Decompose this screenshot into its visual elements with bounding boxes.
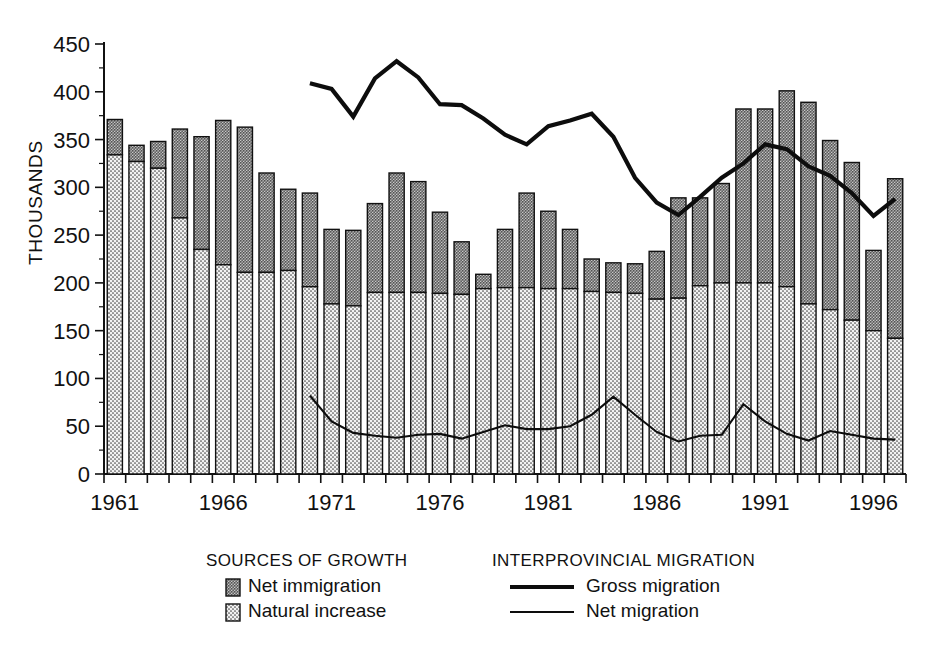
bar-segment-net-immigration [627,264,642,294]
bar-segment-net-immigration [714,184,729,283]
bar-group [584,259,599,474]
bar-group [627,264,642,474]
bar-segment-natural-increase [823,310,838,474]
bar-segment-net-immigration [519,193,534,288]
bar-segment-net-immigration [346,230,361,305]
bar-segment-natural-increase [411,292,426,474]
bar-segment-natural-increase [389,292,404,474]
bar-group [562,229,577,474]
x-axis-tick-label: 1996 [849,490,898,515]
bar-group [107,119,122,474]
bar-segment-natural-increase [844,320,859,474]
bar-segment-natural-increase [151,168,166,474]
y-axis-tick-label: 250 [53,223,90,248]
bar-group [194,137,209,474]
bar-segment-natural-increase [302,287,317,474]
legend-item[interactable]: Net immigration [226,575,381,596]
bar-segment-net-immigration [823,141,838,310]
bar-group [389,173,404,474]
bar-segment-natural-increase [237,272,252,474]
bar-segment-net-immigration [454,242,469,295]
bar-segment-net-immigration [758,109,773,283]
y-axis-title: THOUSANDS [25,140,46,265]
bar-segment-net-immigration [584,259,599,291]
bar-segment-natural-increase [129,162,144,474]
bar-group [151,141,166,474]
y-axis-tick-label: 200 [53,271,90,296]
bar-segment-net-immigration [562,229,577,288]
x-axis-tick-label: 1966 [199,490,248,515]
bar-group [497,229,512,474]
bar-group [888,179,903,474]
bar-segment-natural-increase [584,291,599,474]
bar-segment-natural-increase [866,331,881,474]
bar-segment-natural-increase [692,286,707,474]
bar-group [714,184,729,474]
bar-segment-net-immigration [649,251,664,299]
bar-segment-net-immigration [411,182,426,293]
bar-segment-natural-increase [801,304,816,474]
bar-segment-net-immigration [801,102,816,304]
x-axis-tick-label: 1976 [415,490,464,515]
bar-group [758,109,773,474]
bar-segment-net-immigration [194,137,209,250]
bar-group [259,173,274,474]
bar-segment-natural-increase [562,289,577,474]
bar-group [129,145,144,474]
bar-segment-net-immigration [107,119,122,154]
bar-group [324,229,339,474]
bar-segment-natural-increase [779,287,794,474]
bar-segment-natural-increase [367,292,382,474]
bar-segment-natural-increase [758,283,773,474]
legend-item-label: Gross migration [586,575,720,596]
bar-segment-natural-increase [259,272,274,474]
bar-group [367,204,382,474]
bar-segment-net-immigration [216,120,231,264]
x-axis-tick-label: 1961 [90,490,139,515]
bar-segment-net-immigration [151,141,166,168]
legend-swatch-net-immigration [226,579,240,596]
bar-group [172,129,187,474]
bar-group [671,198,686,474]
bar-group [476,274,491,474]
bar-segment-natural-increase [216,265,231,474]
y-axis-title-text: THOUSANDS [25,140,46,265]
x-axis-tick-label: 1986 [632,490,681,515]
y-axis-tick-label: 300 [53,175,90,200]
bar-group [801,102,816,474]
legend-item[interactable]: Gross migration [510,575,720,596]
bar-segment-natural-increase [346,306,361,474]
bar-segment-natural-increase [107,155,122,474]
bar-group [519,193,534,474]
bar-group [237,127,252,474]
bar-segment-net-immigration [541,211,556,288]
bar-segment-natural-increase [324,304,339,474]
legend-swatch-natural-increase [226,604,240,621]
y-axis-tick-label: 400 [53,80,90,105]
bar-group [823,141,838,474]
bar-segment-natural-increase [454,294,469,474]
bar-segment-natural-increase [476,289,491,474]
bar-segment-net-immigration [866,250,881,330]
chart-figure: 0501001502002503003504004501961196619711… [0,0,932,652]
bar-segment-net-immigration [779,91,794,287]
legend-item[interactable]: Natural increase [226,600,386,621]
y-axis-tick-label: 350 [53,128,90,153]
bar-group [302,193,317,474]
legend-item[interactable]: Net migration [510,600,699,621]
bar-segment-net-immigration [281,189,296,270]
bar-group [606,263,621,474]
bar-segment-natural-increase [281,270,296,474]
bar-segment-net-immigration [389,173,404,292]
bar-segment-natural-increase [541,289,556,474]
bar-group [541,211,556,474]
y-axis-tick-label: 50 [66,414,90,439]
y-axis-tick-label: 450 [53,32,90,57]
legend-item-label: Net immigration [248,575,381,596]
y-axis-tick-label: 0 [78,462,90,487]
x-axis-tick-label: 1991 [741,490,790,515]
x-axis-tick-label: 1971 [307,490,356,515]
bar-segment-natural-increase [194,249,209,474]
y-axis-tick-label: 100 [53,366,90,391]
bar-segment-natural-increase [714,283,729,474]
